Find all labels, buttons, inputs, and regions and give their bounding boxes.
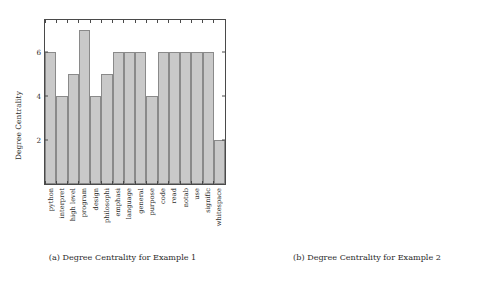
- y-tick-mark-a-4: [45, 95, 48, 96]
- x-tick-mark-a-bottom-10: [157, 181, 158, 184]
- subfigure-b: Degree Centrality 23456 pythonfeaturedyn…: [245, 0, 489, 281]
- x-tick-label-cell-interpret: interpret: [56, 187, 67, 243]
- x-tick-mark-a-top-15: [213, 20, 214, 23]
- x-tick-label-program: program: [80, 188, 88, 217]
- x-tick-mark-a-top-1: [56, 20, 57, 23]
- x-tick-label-cell-use: use: [191, 187, 202, 243]
- x-tick-label-cell-philosophi: philosophi: [101, 187, 112, 243]
- x-tick-label-cell-python: python: [45, 187, 56, 243]
- y-tick-label-a-6: 6: [36, 47, 41, 56]
- x-tick-mark-a-bottom-7: [123, 181, 124, 184]
- x-tick-label-python: python: [47, 188, 55, 211]
- y-tick-mark-right-a-4: [222, 95, 225, 96]
- x-tick-mark-a-top-11: [168, 20, 169, 23]
- bar-interpret: [56, 96, 67, 184]
- y-tick-mark-right-a-2: [222, 139, 225, 140]
- x-tick-mark-a-bottom-5: [101, 181, 102, 184]
- subfigure-caption-b: (b) Degree Centrality for Example 2: [245, 252, 489, 262]
- x-tick-mark-a-bottom-1: [56, 181, 57, 184]
- x-tick-label-cell-program: program: [79, 187, 90, 243]
- bar-whitespace: [214, 140, 225, 184]
- subfigure-caption-a: (a) Degree Centrality for Example 1: [0, 252, 245, 262]
- x-tick-label-cell-read: read: [169, 187, 180, 243]
- x-tick-label-cell-whitespace: whitespace: [214, 187, 225, 243]
- x-tick-label-design: design: [92, 188, 100, 210]
- x-tick-label-whitespace: whitespace: [215, 188, 223, 226]
- x-tick-mark-a-top-4: [90, 20, 91, 23]
- bar-high level: [68, 74, 79, 184]
- x-tick-mark-a-top-10: [157, 20, 158, 23]
- plot-area-a: 246: [44, 19, 226, 185]
- x-tick-label-cell-emphasi: emphasi: [113, 187, 124, 243]
- x-tick-mark-a-top-12: [180, 20, 181, 23]
- x-tick-label-use: use: [193, 188, 201, 200]
- subfigure-a: Degree Centrality 246 pythoninterprethig…: [0, 0, 245, 281]
- x-tick-label-interpret: interpret: [58, 188, 66, 218]
- x-tick-mark-a-top-3: [78, 20, 79, 23]
- y-tick-label-a-2: 2: [36, 135, 41, 144]
- x-tick-label-cell-language: language: [124, 187, 135, 243]
- bar-general: [135, 52, 146, 184]
- x-tick-mark-a-bottom-15: [213, 181, 214, 184]
- bar-design: [90, 96, 101, 184]
- x-tick-mark-a-bottom-3: [78, 181, 79, 184]
- x-tick-label-cell-high level: high level: [68, 187, 79, 243]
- x-tick-mark-a-bottom-13: [191, 181, 192, 184]
- x-tick-mark-a-bottom-12: [180, 181, 181, 184]
- x-tick-label-cell-signific: signific: [203, 187, 214, 243]
- x-tick-label-read: read: [170, 188, 178, 203]
- y-tick-mark-right-a-6: [222, 51, 225, 52]
- x-tick-mark-a-bottom-9: [146, 181, 147, 184]
- x-tick-mark-a-top-6: [112, 20, 113, 23]
- x-tick-mark-a-bottom-4: [90, 181, 91, 184]
- x-tick-mark-a-top-9: [146, 20, 147, 23]
- y-tick-mark-a-2: [45, 139, 48, 140]
- x-tick-label-signific: signific: [204, 188, 212, 213]
- bar-series-a: [45, 20, 225, 184]
- x-tick-label-cell-general: general: [135, 187, 146, 243]
- x-tick-mark-a-top-5: [101, 20, 102, 23]
- x-tick-mark-a-top-16: [225, 20, 226, 23]
- x-tick-label-high level: high level: [69, 188, 77, 221]
- x-tick-label-general: general: [137, 188, 145, 214]
- bar-use: [191, 52, 202, 184]
- y-axis-title-a: Degree Centrality: [14, 91, 23, 160]
- x-tick-mark-a-bottom-16: [225, 181, 226, 184]
- bar-program: [79, 30, 90, 184]
- x-tick-label-notab: notab: [182, 188, 190, 207]
- bar-signific: [203, 52, 214, 184]
- x-tick-mark-a-top-13: [191, 20, 192, 23]
- x-tick-mark-a-bottom-0: [45, 181, 46, 184]
- x-tick-mark-a-top-2: [67, 20, 68, 23]
- x-tick-mark-a-top-8: [135, 20, 136, 23]
- x-tick-mark-a-bottom-8: [135, 181, 136, 184]
- bar-notab: [180, 52, 191, 184]
- y-tick-mark-a-6: [45, 51, 48, 52]
- x-tick-label-cell-design: design: [90, 187, 101, 243]
- figure-two-subplots: Degree Centrality 246 pythoninterprethig…: [0, 0, 489, 281]
- bar-purpose: [146, 96, 157, 184]
- x-tick-mark-a-bottom-14: [202, 181, 203, 184]
- x-tick-mark-a-bottom-2: [67, 181, 68, 184]
- bar-read: [169, 52, 180, 184]
- x-tick-mark-a-bottom-6: [112, 181, 113, 184]
- x-tick-label-cell-code: code: [158, 187, 169, 243]
- bar-code: [158, 52, 169, 184]
- x-tick-label-emphasi: emphasi: [114, 188, 122, 216]
- x-tick-mark-a-top-0: [45, 20, 46, 23]
- x-axis-tick-labels-a: pythoninterprethigh levelprogramdesignph…: [45, 187, 225, 243]
- bar-language: [124, 52, 135, 184]
- x-tick-label-purpose: purpose: [148, 188, 156, 215]
- x-tick-label-philosophi: philosophi: [103, 188, 111, 223]
- bar-philosophi: [101, 74, 112, 184]
- bar-python: [45, 52, 56, 184]
- y-tick-label-a-4: 4: [36, 91, 41, 100]
- x-tick-mark-a-top-7: [123, 20, 124, 23]
- x-tick-label-language: language: [125, 188, 133, 219]
- x-tick-label-cell-notab: notab: [180, 187, 191, 243]
- x-tick-label-code: code: [159, 188, 167, 204]
- x-tick-mark-a-bottom-11: [168, 181, 169, 184]
- x-tick-mark-a-top-14: [202, 20, 203, 23]
- bar-emphasi: [113, 52, 124, 184]
- x-tick-label-cell-purpose: purpose: [146, 187, 157, 243]
